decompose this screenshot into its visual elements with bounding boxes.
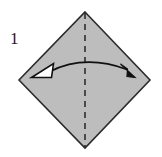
diagram-canvas [0, 0, 162, 157]
origami-fold-diagram: 1 [0, 0, 162, 157]
step-number-label: 1 [10, 29, 19, 48]
